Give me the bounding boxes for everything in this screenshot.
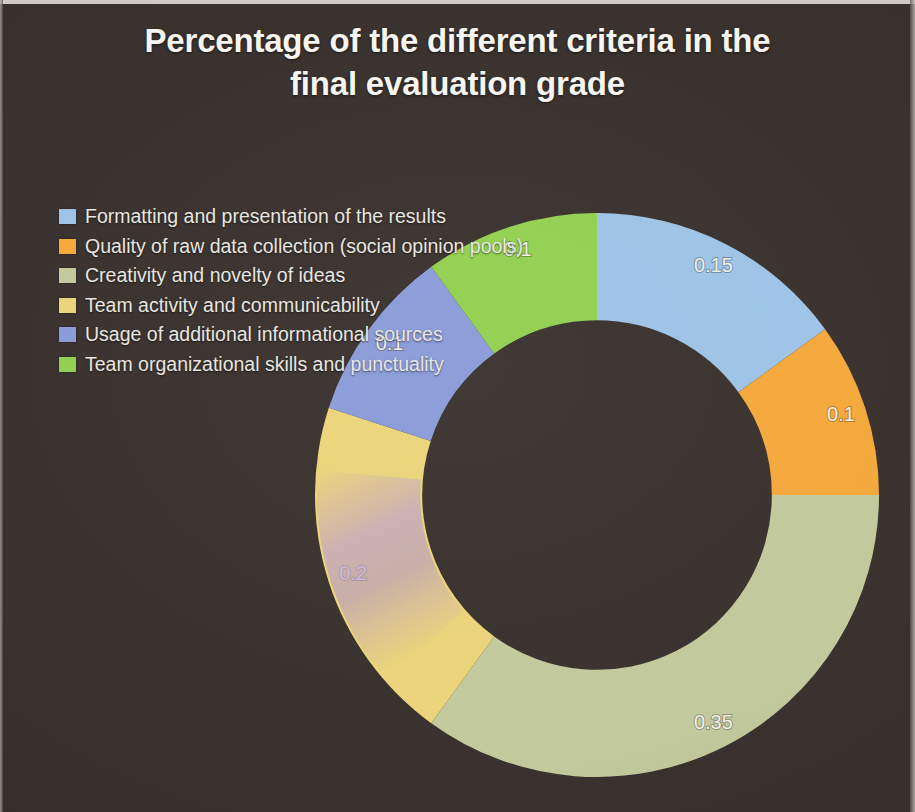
slide-right-edge xyxy=(910,0,915,812)
legend-swatch-icon xyxy=(59,209,76,224)
slice-data-label: 0.35 xyxy=(694,711,733,733)
legend-item: Quality of raw data collection (social o… xyxy=(59,232,523,262)
legend-swatch-icon xyxy=(59,298,76,313)
legend-item-label: Creativity and novelty of ideas xyxy=(85,266,345,286)
slice-data-label: 0.15 xyxy=(694,254,733,276)
chart-title: Percentage of the different criteria in … xyxy=(60,20,855,106)
chart-title-line-2: final evaluation grade xyxy=(290,65,625,102)
legend-item-label: Formatting and presentation of the resul… xyxy=(85,207,446,227)
legend-item-label: Team organizational skills and punctuali… xyxy=(85,355,444,375)
legend-item: Creativity and novelty of ideas xyxy=(59,261,523,291)
legend-item: Team activity and communicability xyxy=(59,291,523,321)
doughnut-slice[interactable] xyxy=(431,495,879,777)
slide-top-edge xyxy=(0,0,915,4)
legend-item: Team organizational skills and punctuali… xyxy=(59,350,523,380)
chart-title-line-1: Percentage of the different criteria in … xyxy=(145,22,771,59)
slice-data-label: 0.1 xyxy=(827,403,855,425)
slide-left-edge xyxy=(0,0,3,812)
slice-data-label: 0.2 xyxy=(339,562,367,584)
legend-item: Formatting and presentation of the resul… xyxy=(59,202,523,232)
presentation-slide: Percentage of the different criteria in … xyxy=(0,0,915,812)
legend-swatch-icon xyxy=(59,357,76,372)
legend-item: Usage of additional informational source… xyxy=(59,320,523,350)
legend-item-label: Quality of raw data collection (social o… xyxy=(85,237,523,257)
legend-item-label: Usage of additional informational source… xyxy=(85,325,443,345)
chart-legend: Formatting and presentation of the resul… xyxy=(59,202,523,379)
legend-swatch-icon xyxy=(59,239,76,254)
legend-swatch-icon xyxy=(59,268,76,283)
legend-swatch-icon xyxy=(59,327,76,342)
legend-item-label: Team activity and communicability xyxy=(85,296,380,316)
